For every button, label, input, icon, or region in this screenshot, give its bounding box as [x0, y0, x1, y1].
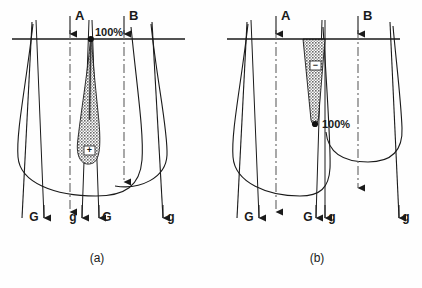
panel-a-gene-label-g-right: g: [167, 210, 174, 224]
panel-a-axis-b-label: B: [129, 8, 138, 23]
panel-b-gene-label-g-inner-right: g: [328, 210, 335, 224]
panel-a-gene-label-g-left: G: [29, 210, 38, 224]
figure-canvas: + A B 100% G g G g (a): [0, 0, 422, 288]
panel-a-node-dot: [88, 36, 94, 42]
panel-b-percent-label: 100%: [322, 118, 350, 130]
panel-b-gene-label-g-left: G: [244, 210, 253, 224]
panel-b-axis-a-label: A: [281, 8, 291, 23]
panel-a-caption: (a): [90, 251, 105, 265]
diagram-svg: + A B 100% G g G g (a): [0, 0, 422, 288]
panel-b-sign-label: −: [313, 60, 318, 70]
canvas-background: [0, 0, 422, 288]
panel-b-gene-label-g-right: g: [402, 210, 409, 224]
panel-a-gene-label-g-inner-right: G: [102, 210, 111, 224]
panel-a-percent-label: 100%: [95, 26, 123, 38]
panel-a-gene-label-g-inner-left: g: [69, 210, 76, 224]
panel-a-axis-a-label: A: [75, 8, 85, 23]
panel-b-node-dot: [312, 121, 318, 127]
panel-b-caption: (b): [310, 251, 325, 265]
panel-a-sign-label: +: [87, 145, 92, 155]
panel-b-gene-label-g-inner-left: G: [303, 210, 312, 224]
panel-b-axis-b-label: B: [363, 8, 372, 23]
